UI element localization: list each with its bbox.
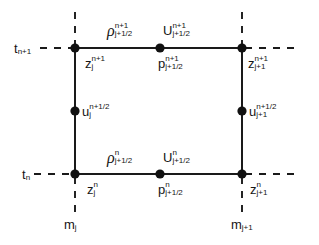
label-rho-bottom: ρnj+1/2 (107, 149, 132, 166)
label-p-top: pn+1j+1/2 (158, 55, 183, 72)
label-U-top-base: U (163, 24, 172, 37)
label-U-bottom-index: nj+1/2 (172, 149, 190, 166)
label-z-top-right-index: n+1j+1 (255, 55, 269, 72)
label-z-top-left: zn+1j (85, 55, 105, 72)
node-z-top-right (237, 43, 246, 52)
label-U-bottom-base: U (163, 151, 172, 164)
label-p-bottom: pnj+1/2 (158, 181, 183, 198)
label-z-top-left-index: n+1j (92, 55, 106, 72)
label-U-top-index: n+1j+1/2 (172, 22, 190, 39)
label-U-bottom: Unj+1/2 (163, 149, 190, 166)
axis-label-m-j-plus-1-base: m (231, 218, 242, 231)
label-u-right: un+1/2j+1 (249, 103, 276, 120)
label-rho-bottom-index: nj+1/2 (115, 149, 133, 166)
label-u-left-index: n+1/2j (89, 103, 109, 120)
axis-label-m-j-plus-1-index: j+1 (242, 216, 253, 233)
label-p-bottom-index: nj+1/2 (165, 181, 183, 198)
node-z-top-left (70, 43, 79, 52)
label-z-bottom-left: znj (87, 181, 98, 198)
node-p-top-mid (155, 43, 164, 52)
node-z-bottom-left (70, 169, 79, 178)
axis-label-m-j-index: j (75, 216, 77, 233)
node-p-bottom-mid (155, 169, 164, 178)
label-rho-top: ρn+1j+1/2 (107, 22, 132, 39)
label-z-bottom-left-index: nj (94, 181, 98, 198)
axis-label-t-n-index: n (26, 166, 30, 183)
stencil-graphic (0, 0, 319, 245)
axis-label-m-j-plus-1: m j+1 (231, 216, 253, 233)
label-z-top-right: zn+1j+1 (248, 55, 268, 72)
label-z-bottom-right: znj+1 (250, 181, 267, 198)
diagram-canvas: t n+1 t n m j m j+1 ρn+1j+1/2 Un+1j+1/2 … (0, 0, 319, 245)
label-u-right-index: n+1/2j+1 (256, 103, 276, 120)
axis-label-t-n-plus-1-index: n+1 (18, 40, 32, 57)
axis-label-t-n: t n (22, 166, 30, 183)
label-rho-top-base: ρ (107, 23, 115, 39)
node-u-right-mid (237, 106, 246, 115)
node-u-left-mid (70, 106, 79, 115)
label-u-left: un+1/2j (82, 103, 109, 120)
node-z-bottom-right (237, 169, 246, 178)
label-p-top-index: n+1j+1/2 (165, 55, 183, 72)
label-z-bottom-right-index: nj+1 (257, 181, 268, 198)
axis-label-m-j: m j (64, 216, 77, 233)
axis-label-t-n-plus-1: t n+1 (14, 40, 31, 57)
axis-label-m-j-base: m (64, 218, 75, 231)
label-rho-bottom-base: ρ (107, 150, 115, 166)
label-rho-top-index: n+1j+1/2 (115, 22, 133, 39)
label-U-top: Un+1j+1/2 (163, 22, 190, 39)
